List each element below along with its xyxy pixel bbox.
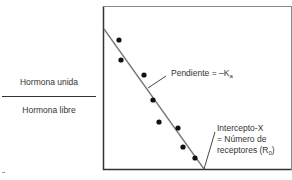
stray-mark [2,172,5,173]
slope-subscript: a [229,73,232,79]
slope-text: Pendiente = –K [171,68,229,78]
data-point [180,144,185,149]
xint-line-2: = Número de [217,134,275,145]
data-point [156,119,161,124]
xint-line-3: receptores (R0) [217,145,275,159]
data-point [175,125,180,130]
slope-annotation: Pendiente = –Ka [171,68,233,82]
data-point [118,57,123,62]
data-point [192,155,197,160]
data-point [141,72,146,77]
xint-leader-line [204,132,215,169]
slope-leader-line [148,76,166,88]
data-point [116,37,121,42]
xint-line-1: Intercepto-X [217,123,275,134]
xint-line-3-text: receptores (R [217,145,269,155]
data-point [150,97,155,102]
xint-close-paren: ) [272,145,275,155]
x-intercept-annotation: Intercepto-X = Número de receptores (R0) [217,123,275,159]
